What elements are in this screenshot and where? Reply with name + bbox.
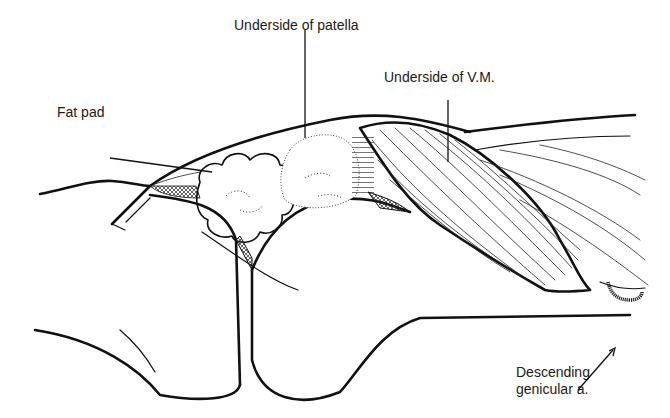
fat-pad: [197, 154, 294, 243]
thigh-muscle: [465, 115, 648, 289]
knee-drawing: [0, 0, 670, 418]
genicular-artery: [608, 282, 642, 300]
label-patella: Underside of patella: [234, 17, 359, 34]
label-fat-pad: Fat pad: [57, 104, 104, 121]
label-artery-line2: genicular a.: [516, 381, 590, 398]
label-artery: Descending genicular a.: [516, 364, 590, 398]
label-vm: Underside of V.M.: [384, 69, 495, 86]
patella: [281, 135, 359, 208]
label-artery-line1: Descending: [516, 364, 590, 381]
anatomical-figure: Underside of patella Underside of V.M. F…: [0, 0, 670, 418]
skin-flap: [40, 116, 470, 230]
